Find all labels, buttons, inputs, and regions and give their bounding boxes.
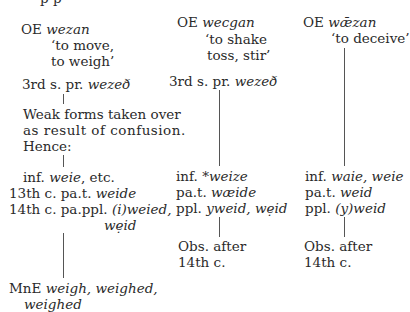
past-tense-form: 13th c. pa.t. weide xyxy=(9,185,136,201)
obsolete-note: 14th c. xyxy=(178,254,225,270)
etymon-heading: OE wecgan xyxy=(177,14,255,30)
connector-line xyxy=(63,155,64,167)
connector-line xyxy=(219,217,220,237)
etymon-heading: OE wezan xyxy=(21,21,90,37)
past-participle-form: ppl. yweid, wẹid xyxy=(176,200,287,216)
past-participle-form: ppl. (y)weid xyxy=(305,200,386,216)
infinitive-form: inf. waie, weie xyxy=(305,168,403,184)
connector-line xyxy=(344,217,345,237)
note: Weak forms taken over xyxy=(23,106,181,122)
gloss: ‘to shake xyxy=(205,31,267,47)
connector-line xyxy=(63,94,64,104)
past-participle-form-alt: wẹid xyxy=(104,217,137,233)
infinitive-form: inf. weie, etc. xyxy=(23,169,115,185)
obsolete-note: Obs. after xyxy=(178,238,246,254)
gloss: ‘to move, xyxy=(51,37,114,53)
gloss: ‘to deceive’ xyxy=(331,30,410,46)
modern-english-forms-alt: weighed xyxy=(24,296,82,312)
present-form: 3rd s. pr. wezeð xyxy=(169,73,277,89)
present-form: 3rd s. pr. wezeð xyxy=(22,76,130,92)
past-participle-form: 14th c. pa.ppl. (i)weied, xyxy=(9,201,172,217)
cutoff-text: p p xyxy=(40,0,62,6)
obsolete-note: 14th c. xyxy=(304,254,351,270)
note: as result of confusion. xyxy=(23,122,186,138)
obsolete-note: Obs. after xyxy=(304,238,372,254)
connector-line xyxy=(344,48,345,166)
connector-line xyxy=(219,90,220,166)
modern-english-forms: MnE weigh, weighed, xyxy=(9,280,158,296)
connector-line xyxy=(63,233,64,278)
gloss: toss, stir’ xyxy=(207,47,270,63)
past-tense-form: pa.t. weid xyxy=(305,184,373,200)
infinitive-form: inf. *weize xyxy=(176,168,248,184)
past-tense-form: pa.t. wæide xyxy=(176,184,256,200)
note: Hence: xyxy=(23,138,72,154)
etymon-heading: OE wǣzan xyxy=(303,14,376,30)
gloss: to weigh’ xyxy=(51,53,114,69)
